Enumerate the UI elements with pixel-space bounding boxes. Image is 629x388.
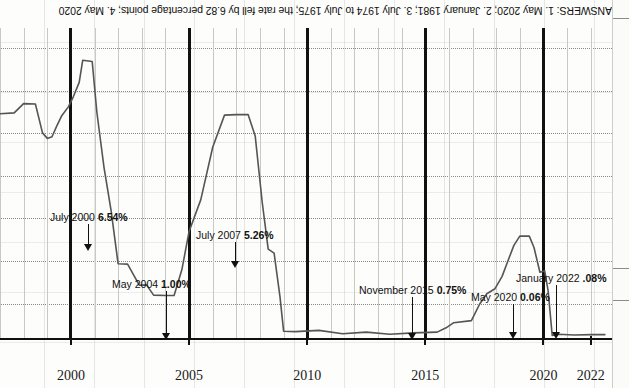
answers-note: ANSWERS: 1. May 2020; 2. January 1981; 3… xyxy=(0,2,612,20)
annotation-label: November 2015 xyxy=(359,284,437,296)
page-edge-rule xyxy=(613,268,629,269)
x-tick-2020 xyxy=(542,336,544,345)
arrow-shaft xyxy=(412,297,413,333)
annotation-nov2015: November 2015 0.75% xyxy=(359,284,466,296)
annotation-label: July 2007 xyxy=(196,229,244,241)
annotation-value: 0.06% xyxy=(520,291,550,303)
annotation-value: 6.54% xyxy=(98,211,128,223)
arrow-head xyxy=(231,261,239,268)
page-edge-rule xyxy=(613,300,629,301)
x-tick-2010 xyxy=(306,336,308,345)
x-tick-2015 xyxy=(424,336,426,345)
x-axis-label-2010: 2010 xyxy=(293,368,321,384)
arrow-shaft xyxy=(513,304,514,332)
x-axis-label-2000: 2000 xyxy=(57,368,85,384)
arrow-shaft xyxy=(166,291,167,333)
x-axis-label-2005: 2005 xyxy=(175,368,203,384)
x-tick-2005 xyxy=(188,336,190,345)
arrow-head xyxy=(408,333,416,340)
page-edge-rule xyxy=(613,18,629,19)
chart-plot-area: 200020052010201520202022 July 2000 6.54%… xyxy=(0,28,612,338)
annotation-may2020: May 2020 0.06% xyxy=(471,291,550,303)
annotation-label: January 2022 xyxy=(516,272,583,284)
page-edge-gutter xyxy=(612,0,629,388)
arrow-head xyxy=(162,333,170,340)
x-tick-2022 xyxy=(590,336,592,345)
arrow-head xyxy=(509,332,517,339)
annotation-may2004: May 2004 1.00% xyxy=(112,278,191,290)
annotation-jul2000: July 2000 6.54% xyxy=(50,211,128,223)
x-tick-2000 xyxy=(70,336,72,345)
annotation-label: May 2020 xyxy=(471,291,520,303)
x-axis-label-2020: 2020 xyxy=(530,368,558,384)
arrow-shaft xyxy=(235,242,236,261)
annotation-label: May 2004 xyxy=(112,278,161,290)
annotation-value: 0.75% xyxy=(437,284,467,296)
page-canvas: ANSWERS: 1. May 2020; 2. January 1981; 3… xyxy=(0,0,629,388)
x-axis-label-2022: 2022 xyxy=(577,368,605,384)
annotation-jan2022: January 2022 .08% xyxy=(516,272,607,284)
annotation-jul2007: July 2007 5.26% xyxy=(196,229,274,241)
annotation-label: July 2000 xyxy=(50,211,98,223)
annotation-value: 5.26% xyxy=(244,229,274,241)
arrow-shaft xyxy=(88,224,89,244)
arrow-shaft xyxy=(556,285,557,332)
annotation-value: .08% xyxy=(583,272,607,284)
x-axis-label-2015: 2015 xyxy=(411,368,439,384)
arrow-head xyxy=(84,244,92,251)
arrow-head xyxy=(552,332,560,339)
annotation-value: 1.00% xyxy=(161,278,191,290)
